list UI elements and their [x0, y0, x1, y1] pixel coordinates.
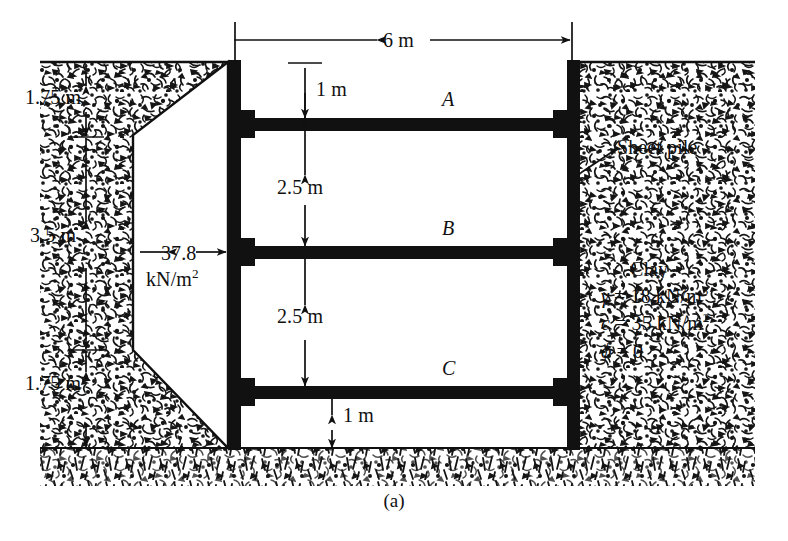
cohesion-exponent: 2 — [703, 310, 710, 325]
label-soil-friction-angle: ϕ = 0 — [601, 340, 643, 362]
gamma-exponent: 3 — [702, 283, 709, 298]
label-strut-a: A — [442, 88, 454, 110]
soil-mass-right — [580, 62, 755, 448]
figure-caption: (a) — [0, 490, 788, 512]
gamma-symbol: γ — [601, 285, 609, 307]
label-pressure-top-1p75m: 1.75 m — [25, 86, 81, 108]
phi-equation: = 0 — [617, 340, 644, 362]
diagram-canvas — [0, 0, 788, 541]
label-pressure-value: 37.8 — [161, 242, 196, 264]
label-sheet-pile: Sheet pile — [617, 136, 697, 158]
phi-symbol: ϕ — [601, 340, 611, 362]
cohesion-symbol: c — [601, 312, 610, 334]
label-soil-name: Clay — [630, 258, 668, 280]
label-2p5m-ab: 2.5 m — [277, 176, 323, 198]
label-pressure-unit: kN/m2 — [146, 268, 199, 290]
label-1m-top: 1 m — [316, 78, 347, 100]
label-pressure-bottom-1p75m: 1.75 m — [25, 372, 81, 394]
gamma-equation: = 18 kN/m — [614, 285, 702, 307]
label-pressure-mid-3p5m: 3.5 m — [30, 224, 76, 246]
soil-mass-base — [40, 448, 755, 486]
strut-a — [241, 118, 567, 131]
pressure-unit-text: kN/m — [146, 268, 192, 290]
cohesion-equation: = 35 kN/m — [615, 312, 703, 334]
pressure-unit-exponent: 2 — [192, 266, 199, 281]
label-2p5m-bc: 2.5 m — [277, 305, 323, 327]
label-width-6m: 6 m — [383, 29, 414, 51]
strut-b — [241, 246, 567, 259]
label-strut-c: C — [442, 357, 455, 379]
label-soil-cohesion: c = 35 kN/m2 — [601, 312, 710, 334]
label-soil-unit-weight: γ = 18 kN/m3 — [601, 285, 709, 307]
figure-braced-cut: 6 m 1 m 2.5 m 2.5 m 1 m 1.75 m 3.5 m 1.7… — [0, 0, 788, 541]
strut-c — [241, 386, 567, 399]
label-1m-bottom: 1 m — [343, 404, 374, 426]
label-strut-b: B — [442, 217, 454, 239]
